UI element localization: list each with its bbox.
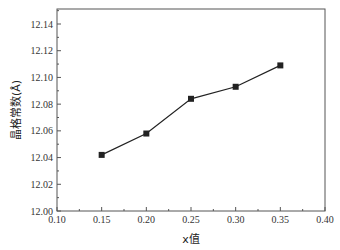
- y-tick-label: 12.14: [31, 19, 54, 30]
- y-tick-label: 12.08: [31, 99, 54, 110]
- x-tick-label: 0.30: [227, 214, 245, 225]
- data-point-marker: [188, 96, 194, 102]
- x-tick-label: 0.20: [138, 214, 156, 225]
- x-tick-label: 0.35: [272, 214, 290, 225]
- y-tick-label: 12.00: [31, 206, 54, 217]
- data-point-marker: [233, 84, 239, 90]
- data-point-marker: [99, 152, 105, 158]
- y-axis-label: 晶格常数(Å): [9, 80, 23, 140]
- y-tick-label: 12.12: [31, 45, 54, 56]
- y-tick-label: 12.06: [31, 125, 54, 136]
- y-tick-label: 12.02: [31, 179, 54, 190]
- y-tick-label: 12.10: [31, 72, 54, 83]
- data-point-marker: [277, 62, 283, 68]
- line-chart: 0.100.150.200.250.300.350.40 12.0012.021…: [0, 0, 340, 250]
- x-tick-label: 0.25: [182, 214, 200, 225]
- y-tick-label: 12.04: [31, 152, 54, 163]
- x-tick-label: 0.15: [93, 214, 111, 225]
- y-axis-ticks: 12.0012.0212.0412.0612.0812.1012.1212.14: [31, 11, 62, 217]
- x-axis-label: x值: [182, 233, 200, 246]
- data-point-marker: [143, 131, 149, 137]
- plot-frame: [57, 9, 325, 211]
- x-axis-ticks: 0.100.150.200.250.300.350.40: [48, 207, 334, 225]
- x-tick-label: 0.40: [316, 214, 334, 225]
- data-series: [99, 62, 284, 157]
